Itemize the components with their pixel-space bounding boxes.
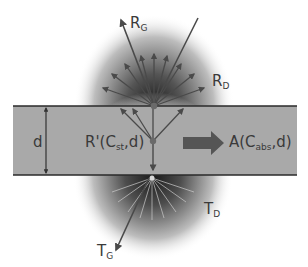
scattering-diagram: RG RD TD TG d R'(Cst,d) A(Cabs,d) (0, 0, 308, 267)
exit-point (150, 176, 155, 181)
label-reflected-diffuse: RD (212, 74, 229, 91)
label-internal-reflectance: R'(Cst,d) (85, 135, 144, 152)
label-reflected-specular: RG (130, 16, 147, 33)
label-transmitted-diffuse: TD (204, 202, 220, 219)
surface-scatter-point (151, 103, 157, 109)
label-absorbance: A(Cabs,d) (229, 135, 292, 152)
label-thickness: d (33, 135, 43, 150)
label-transmitted-specular: TG (97, 244, 113, 261)
diagram-canvas (0, 0, 308, 267)
internal-scatter-point (150, 138, 156, 144)
